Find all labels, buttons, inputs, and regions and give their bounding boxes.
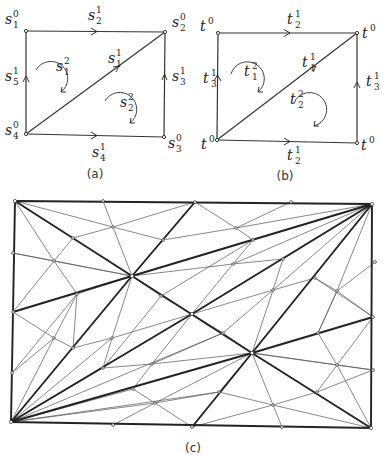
svg-text:t: t bbox=[290, 91, 296, 107]
svg-text:s: s bbox=[120, 94, 127, 110]
face-label: t22 bbox=[290, 89, 304, 110]
svg-text:s: s bbox=[88, 7, 95, 23]
svg-text:1: 1 bbox=[211, 68, 217, 78]
svg-text:s: s bbox=[92, 144, 99, 160]
svg-text:1: 1 bbox=[116, 59, 122, 69]
svg-text:2: 2 bbox=[128, 92, 134, 102]
vertex-label: s02 bbox=[172, 12, 186, 33]
edge-label: t13 bbox=[203, 68, 217, 89]
caption-b: (b) bbox=[277, 169, 294, 183]
svg-text:1: 1 bbox=[13, 66, 19, 76]
edge-label: t13 bbox=[366, 71, 380, 92]
svg-text:t: t bbox=[366, 73, 372, 89]
svg-text:t: t bbox=[287, 147, 293, 163]
edge-label: s11 bbox=[108, 48, 122, 69]
edge-s1-diagonal bbox=[26, 32, 165, 134]
svg-text:t: t bbox=[200, 18, 206, 34]
svg-text:3: 3 bbox=[176, 144, 182, 154]
svg-text:2: 2 bbox=[128, 103, 134, 113]
vertex-node bbox=[163, 30, 166, 33]
svg-text:1: 1 bbox=[310, 52, 316, 62]
panel-c-triangulation: (c) bbox=[9, 199, 376, 455]
svg-text:1: 1 bbox=[310, 63, 316, 73]
diagram-canvas: s01s02s03s04s12s11s13s14s15s21s22 (a) t0… bbox=[0, 0, 386, 457]
svg-text:3: 3 bbox=[211, 79, 217, 89]
svg-text:3: 3 bbox=[374, 82, 380, 92]
svg-text:1: 1 bbox=[13, 20, 19, 30]
svg-text:2: 2 bbox=[64, 56, 70, 66]
svg-text:1: 1 bbox=[64, 67, 70, 77]
svg-text:0: 0 bbox=[180, 12, 186, 22]
svg-text:t: t bbox=[203, 70, 209, 86]
svg-text:0: 0 bbox=[208, 16, 214, 26]
svg-text:2: 2 bbox=[96, 16, 102, 26]
svg-text:s: s bbox=[5, 122, 12, 138]
vertex-node bbox=[355, 141, 358, 144]
edge-t1-diagonal bbox=[217, 33, 357, 140]
vertex-node bbox=[216, 31, 219, 34]
vertex-label: t0 bbox=[362, 23, 376, 41]
svg-text:1: 1 bbox=[180, 66, 186, 76]
svg-text:2: 2 bbox=[298, 89, 304, 99]
svg-text:1: 1 bbox=[252, 72, 258, 82]
svg-text:0: 0 bbox=[370, 23, 376, 33]
svg-text:0: 0 bbox=[176, 133, 182, 143]
svg-text:s: s bbox=[172, 14, 179, 30]
svg-text:0: 0 bbox=[209, 134, 215, 144]
svg-text:t: t bbox=[362, 25, 368, 41]
vertex-label: t0 bbox=[201, 134, 215, 152]
svg-text:4: 4 bbox=[100, 153, 106, 163]
panel-b: t0t0t0t0t12t11t13t12t13t21t22 (b) bbox=[200, 9, 380, 183]
vertex-node bbox=[355, 31, 358, 34]
edge-t3-left bbox=[217, 33, 218, 140]
edge-label: t12 bbox=[287, 145, 301, 166]
vertex-node bbox=[24, 132, 27, 135]
edge-label: s15 bbox=[5, 66, 19, 87]
svg-text:0: 0 bbox=[13, 120, 19, 130]
svg-text:s: s bbox=[5, 11, 12, 27]
edge-label: s14 bbox=[92, 142, 106, 163]
svg-text:t: t bbox=[361, 137, 367, 153]
face-label: s22 bbox=[120, 92, 134, 113]
svg-text:2: 2 bbox=[295, 156, 301, 166]
svg-text:s: s bbox=[172, 68, 179, 84]
svg-text:2: 2 bbox=[252, 61, 258, 71]
svg-text:t: t bbox=[302, 54, 308, 70]
svg-text:s: s bbox=[108, 50, 115, 66]
svg-text:5: 5 bbox=[13, 77, 19, 87]
vertex-node bbox=[24, 29, 27, 32]
vertex-label: s01 bbox=[5, 9, 19, 30]
svg-text:1: 1 bbox=[295, 145, 301, 155]
svg-text:0: 0 bbox=[369, 135, 375, 145]
vertex-label: t0 bbox=[200, 16, 214, 34]
caption-a: (a) bbox=[87, 167, 104, 181]
panel-a: s01s02s03s04s12s11s13s14s15s21s22 (a) bbox=[5, 5, 186, 181]
svg-text:0: 0 bbox=[13, 9, 19, 19]
svg-text:t: t bbox=[244, 63, 250, 79]
svg-text:1: 1 bbox=[295, 9, 301, 19]
vertex-node bbox=[162, 135, 165, 138]
svg-text:1: 1 bbox=[100, 142, 106, 152]
svg-text:t: t bbox=[287, 11, 293, 27]
svg-text:s: s bbox=[56, 58, 63, 74]
svg-text:2: 2 bbox=[180, 23, 186, 33]
svg-text:2: 2 bbox=[298, 100, 304, 110]
face-label: s21 bbox=[56, 56, 70, 77]
svg-text:t: t bbox=[201, 136, 207, 152]
vertex-label: s03 bbox=[168, 133, 182, 154]
vertex-label: t0 bbox=[361, 135, 375, 153]
svg-text:s: s bbox=[5, 68, 12, 84]
edge-label: s13 bbox=[172, 66, 186, 87]
vertex-label: s04 bbox=[5, 120, 19, 141]
face-label: t21 bbox=[244, 61, 258, 82]
edge-label: s12 bbox=[88, 5, 102, 26]
svg-text:1: 1 bbox=[116, 48, 122, 58]
svg-text:1: 1 bbox=[374, 71, 380, 81]
svg-text:1: 1 bbox=[96, 5, 102, 15]
svg-text:4: 4 bbox=[13, 131, 19, 141]
svg-text:2: 2 bbox=[295, 20, 301, 30]
svg-text:s: s bbox=[168, 135, 175, 151]
svg-text:3: 3 bbox=[180, 77, 186, 87]
caption-c: (c) bbox=[185, 441, 201, 455]
edge-label: t12 bbox=[287, 9, 301, 30]
